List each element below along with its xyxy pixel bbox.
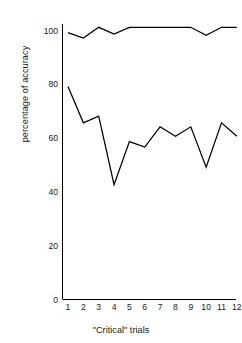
- x-tick-label-12: 12: [229, 302, 242, 312]
- series-lower-line: [68, 86, 237, 184]
- x-tick-label-5: 5: [121, 302, 137, 312]
- y-tick-label-100: 100: [28, 26, 58, 36]
- chart-container: percentage of accuracy "Critical" trials…: [0, 0, 242, 343]
- x-tick-label-4: 4: [106, 302, 122, 312]
- y-tick-label-60: 60: [28, 133, 58, 143]
- x-tick-label-2: 2: [75, 302, 91, 312]
- y-axis-title: percentage of accuracy: [20, 14, 36, 174]
- plot-area: [0, 0, 242, 343]
- x-tick-label-10: 10: [198, 302, 214, 312]
- x-tick-label-3: 3: [91, 302, 107, 312]
- x-tick-label-1: 1: [60, 302, 76, 312]
- axis-lines: [63, 24, 237, 300]
- y-tick-label-40: 40: [28, 187, 58, 197]
- series-upper-line: [68, 27, 237, 38]
- y-tick-label-0: 0: [28, 295, 58, 305]
- y-tick-label-80: 80: [28, 79, 58, 89]
- x-tick-label-11: 11: [214, 302, 230, 312]
- x-tick-label-9: 9: [183, 302, 199, 312]
- x-tick-label-7: 7: [152, 302, 168, 312]
- x-tick-label-8: 8: [167, 302, 183, 312]
- x-axis-title: "Critical" trials: [0, 325, 242, 335]
- y-tick-label-20: 20: [28, 241, 58, 251]
- x-tick-label-6: 6: [137, 302, 153, 312]
